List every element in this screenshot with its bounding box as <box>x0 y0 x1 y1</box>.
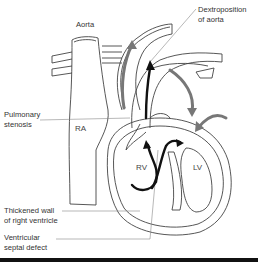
label-thickened-1: Thickened wall <box>4 206 54 215</box>
label-pulmonary-1: Pulmonary <box>4 110 40 119</box>
label-vsd-1: Ventricular <box>4 233 40 242</box>
chamber-ra: RA <box>75 124 86 133</box>
label-dextroposition-2: of aorta <box>198 15 224 24</box>
leader-dextroposition <box>150 9 196 62</box>
chamber-rv: RV <box>136 163 147 172</box>
label-pulmonary-2: stenosis <box>4 120 32 129</box>
vena-cava-outline <box>69 37 108 205</box>
chamber-lv: LV <box>193 163 202 172</box>
pulmonary-vein-upper <box>52 52 72 63</box>
label-aorta: Aorta <box>76 20 94 29</box>
ventricular-septum <box>168 152 182 210</box>
leader-pulmonary <box>40 118 130 120</box>
label-vsd-2: septal defect <box>4 243 47 252</box>
bottom-bar <box>0 258 258 262</box>
label-dextroposition-1: Dextroposition <box>198 5 247 14</box>
label-thickened-2: of right ventricle <box>4 216 58 225</box>
